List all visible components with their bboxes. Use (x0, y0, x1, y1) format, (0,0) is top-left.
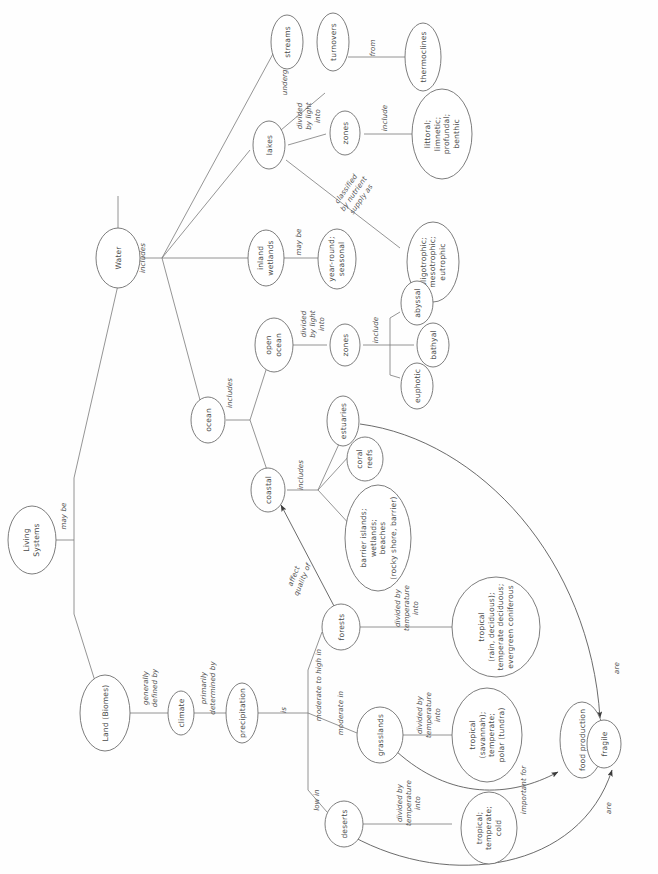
node-label-thermoclines: thermoclines (419, 31, 428, 82)
link-label-may-be-wetlands: may be (294, 228, 303, 256)
link-label-from: from (368, 39, 377, 56)
link-label-moderate-to-high-in: moderate to high in (314, 648, 323, 721)
node-wetland-types[interactable]: year-round;seasonal (318, 229, 356, 289)
node-land-biomes[interactable]: Land (Biomes) (80, 675, 130, 751)
node-label-euphotic: euphotic (413, 369, 422, 403)
node-estuaries[interactable]: estuaries (327, 396, 359, 446)
concept-map-canvas: may be includes undergo from dividedby l… (0, 0, 658, 874)
node-bathyal[interactable]: bathyal (417, 323, 449, 367)
node-label-ocean: ocean (204, 408, 213, 432)
node-grassland-types[interactable]: tropical(savannah);temperate;polar (tund… (452, 688, 522, 782)
link-label-important-for: important for (519, 765, 528, 814)
node-label-open-ocean: openocean (264, 333, 283, 357)
node-forest-types[interactable]: tropical(rain, deciduous);temperate deci… (452, 577, 540, 677)
link-label-includes-ocean: includes (225, 378, 234, 408)
node-climate[interactable]: climate (168, 691, 194, 735)
node-forests[interactable]: forests (322, 604, 360, 650)
link-label-generally-defined-by: generallydefined by (141, 668, 159, 707)
link-label-moderate-in: moderate in (336, 690, 345, 735)
link-label-include-ocean-zones: include (371, 316, 380, 343)
node-precipitation[interactable]: precipitation (226, 683, 258, 743)
node-label-food-production: food production (578, 709, 587, 771)
link-label-are-bottom: are (604, 802, 613, 814)
node-label-lake-zones: zones (341, 122, 350, 145)
node-barrier-islands[interactable]: barrier islands;wetlands;beaches(rocky s… (345, 485, 411, 591)
node-open-ocean[interactable]: openocean (255, 318, 293, 372)
node-euphotic[interactable]: euphotic (401, 363, 433, 409)
node-label-coral-reefs: coralreefs (355, 449, 374, 469)
node-label-deserts: deserts (340, 809, 349, 838)
node-living-systems[interactable]: LivingSystems (8, 506, 56, 574)
link-label-are-top: are (612, 662, 621, 674)
node-ocean[interactable]: ocean (191, 397, 225, 443)
node-abyssal[interactable]: abyssal (401, 281, 433, 325)
node-label-streams: streams (283, 26, 292, 58)
link-label-includes-coastal: includes (296, 460, 305, 490)
node-label-grasslands: grasslands (376, 714, 385, 756)
node-label-abyssal: abyssal (413, 288, 422, 318)
node-label-coastal: coastal (264, 476, 273, 504)
node-water[interactable]: Water (96, 228, 140, 288)
node-label-land-biomes: Land (Biomes) (101, 685, 110, 742)
node-thermoclines[interactable]: thermoclines (405, 23, 441, 91)
node-label-lakes: lakes (265, 135, 274, 155)
node-ocean-zones[interactable]: zones (330, 324, 360, 366)
node-deserts[interactable]: deserts (325, 801, 363, 847)
node-label-precipitation: precipitation (238, 688, 247, 738)
node-label-bathyal: bathyal (429, 330, 438, 360)
node-lake-zones[interactable]: zones (330, 111, 360, 155)
node-label-ocean-zones: zones (341, 334, 350, 357)
node-turnovers[interactable]: turnovers (317, 13, 349, 71)
link-label-include-lake-zones: include (380, 104, 389, 131)
node-streams[interactable]: streams (271, 15, 303, 69)
node-label-estuaries: estuaries (339, 403, 348, 439)
node-inland-wetlands[interactable]: inlandwetlands (248, 230, 284, 286)
node-label-trophic: oligotrophic;mesotrophic;eutrophic (419, 236, 447, 288)
node-coastal[interactable]: coastal (251, 468, 285, 512)
node-fragile[interactable]: fragile (587, 720, 621, 768)
node-desert-types[interactable]: tropical;temperate;cold (461, 792, 517, 864)
node-label-lake-zone-list: littoral;limnetic;profundal;benthic (423, 114, 461, 154)
node-label-living-systems: LivingSystems (22, 523, 41, 556)
node-lake-zone-list[interactable]: littoral;limnetic;profundal;benthic (412, 89, 472, 179)
node-coral-reefs[interactable]: coralreefs (347, 437, 383, 481)
node-label-water: Water (114, 246, 123, 270)
node-label-fragile: fragile (600, 731, 609, 756)
node-label-wetland-types: year-round;seasonal (327, 236, 346, 281)
node-grasslands[interactable]: grasslands (357, 707, 403, 763)
link-label-low-in: low in (312, 789, 321, 811)
node-label-turnovers: turnovers (329, 23, 338, 61)
node-label-climate: climate (177, 698, 186, 727)
link-label-is: is (279, 707, 288, 713)
concept-map-svg: may be includes undergo from dividedby l… (0, 0, 658, 874)
node-lakes[interactable]: lakes (253, 121, 285, 169)
link-label-may-be: may be (59, 502, 68, 530)
node-label-forests: forests (337, 614, 346, 641)
